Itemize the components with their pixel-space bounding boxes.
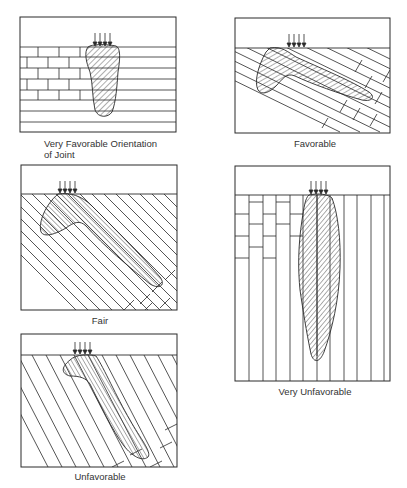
- panel-unfavorable: Unfavorable: [0, 0, 220, 488]
- joint-diagram-unfavorable: [0, 0, 220, 488]
- caption-unfavorable: Unfavorable: [60, 471, 140, 482]
- caption-line-1: Very Unfavorable: [270, 386, 360, 397]
- caption-very-unfavorable: Very Unfavorable: [270, 386, 360, 397]
- caption-line-1: Unfavorable: [60, 471, 140, 482]
